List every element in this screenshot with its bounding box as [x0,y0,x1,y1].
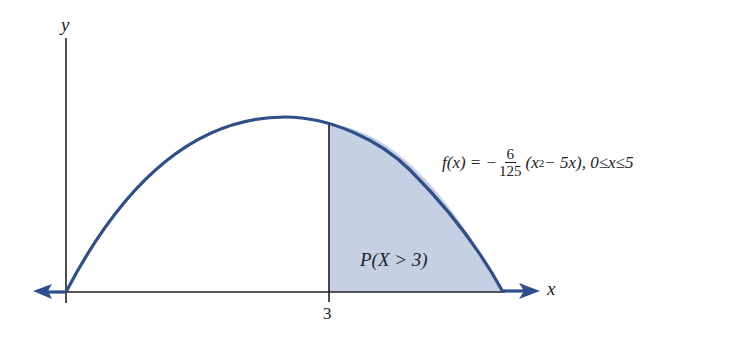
formula-numerator: 6 [505,146,517,163]
tick-label-3: 3 [323,304,332,324]
x-axis-label: x [547,278,555,300]
formula-denominator: 125 [499,163,522,179]
formula: f(x) = − 6 125 (x2 − 5x), 0≤x≤5 [442,146,633,179]
y-axis-label: y [61,14,69,36]
formula-paren: (x [526,153,539,173]
region-label: P(X > 3) [360,249,428,271]
formula-fraction: 6 125 [499,146,522,179]
formula-lhs: f(x) = − [442,153,497,173]
formula-rest: − 5x), 0≤x≤5 [544,153,633,173]
